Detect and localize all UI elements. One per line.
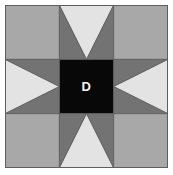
corner-top-right xyxy=(114,5,168,59)
flying-geese-right xyxy=(114,59,168,113)
center-square xyxy=(59,59,113,113)
corner-top-left xyxy=(5,5,59,59)
flying-geese-top xyxy=(59,5,113,59)
flying-geese-left xyxy=(5,59,59,113)
quilt-block xyxy=(5,5,168,168)
quilt-block-diagram: D xyxy=(0,0,173,175)
corner-bottom-right xyxy=(114,114,168,168)
quilt-block-svg xyxy=(5,5,168,168)
corner-bottom-left xyxy=(5,114,59,168)
flying-geese-bottom xyxy=(59,114,113,168)
